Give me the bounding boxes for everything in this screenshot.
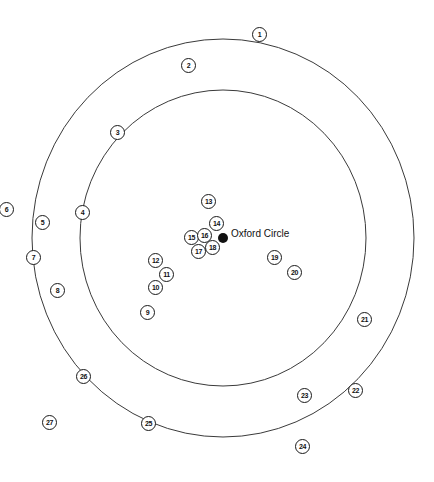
marker-1: 1	[252, 27, 267, 42]
marker-2: 2	[181, 58, 196, 73]
marker-23: 23	[297, 388, 312, 403]
marker-24: 24	[295, 439, 310, 454]
marker-13: 13	[201, 194, 216, 209]
oxford-circle-point	[218, 233, 228, 243]
marker-21: 21	[357, 312, 372, 327]
marker-8: 8	[50, 283, 65, 298]
marker-17: 17	[191, 244, 206, 259]
marker-22: 22	[348, 383, 363, 398]
marker-12: 12	[148, 253, 163, 268]
marker-4: 4	[75, 205, 90, 220]
marker-7: 7	[26, 250, 41, 265]
marker-26: 26	[76, 369, 91, 384]
marker-11: 11	[159, 267, 174, 282]
oxford-circle-label: Oxford Circle	[231, 228, 289, 239]
marker-14: 14	[209, 216, 224, 231]
marker-25: 25	[141, 416, 156, 431]
marker-18: 18	[205, 240, 220, 255]
marker-10: 10	[148, 280, 163, 295]
marker-5: 5	[35, 215, 50, 230]
marker-27: 27	[42, 415, 57, 430]
marker-9: 9	[140, 305, 155, 320]
marker-3: 3	[110, 125, 125, 140]
marker-19: 19	[267, 250, 282, 265]
marker-20: 20	[287, 265, 302, 280]
